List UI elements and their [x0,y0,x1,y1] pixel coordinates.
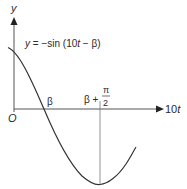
x-intercept-label: β [47,96,53,107]
minimum-x-label-numerator: π [103,85,109,95]
minimum-x-label-base: β + [84,94,99,105]
sine-graph: y 10t O y = −sin (10t − β) β β + π 2 [0,0,187,189]
y-axis-arrow-icon [11,17,18,25]
y-axis-label: y [10,2,18,14]
origin-label: O [8,112,17,124]
sine-curve [8,48,136,185]
equation-label: y = −sin (10t − β) [24,38,101,49]
x-axis-label: 10t [165,103,181,115]
x-axis-arrow-icon [156,106,164,113]
minimum-x-label-denominator: 2 [103,98,108,108]
